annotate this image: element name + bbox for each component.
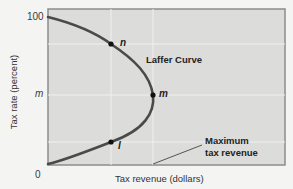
y-tick-100: 100	[27, 11, 44, 22]
y-tick-m: m	[35, 88, 43, 99]
annotation-line-2: tax revenue	[205, 147, 258, 159]
origin-label: 0	[35, 169, 41, 180]
annotation-line-1: Maximum	[205, 135, 258, 147]
x-axis-title: Tax revenue (dollars)	[115, 173, 204, 184]
point-n-label: n	[120, 37, 126, 48]
curve-name-label: Laffer Curve	[146, 54, 202, 66]
point-n-marker	[108, 41, 113, 46]
laffer-curve-chart: 100 m 0 n m l Laffer Curve Maximum tax r…	[0, 0, 293, 189]
point-m-marker	[150, 92, 155, 97]
y-axis-title: Tax rate (percent)	[8, 55, 19, 129]
point-l-label: l	[118, 140, 121, 151]
point-m-label: m	[159, 88, 168, 99]
point-l-marker	[108, 139, 113, 144]
max-revenue-annotation: Maximum tax revenue	[205, 135, 258, 159]
chart-canvas	[0, 0, 293, 189]
